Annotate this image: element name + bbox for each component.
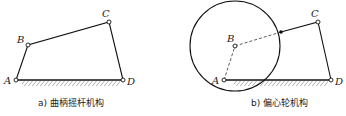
joint-d [121,78,125,82]
label-a: A [3,75,11,86]
dashed-ab [224,46,235,80]
caption-a: a) 曲柄摇杆机构 [38,96,104,109]
label-b: B [16,34,24,45]
links-abcd [16,22,123,80]
joint-rod [279,30,283,34]
joint-a [14,78,18,82]
caption-b: b) 偏心轮机构 [251,96,308,109]
joint-b [26,43,30,47]
joint-a [222,78,226,82]
label-c: C [311,8,319,19]
label-c: C [102,8,110,19]
ground-hatch [22,81,120,86]
joint-c [107,20,111,24]
joint-b [233,44,237,48]
label-d: D [126,76,135,87]
crank-rocker-figure: A B C D [3,8,135,87]
eccentric-wheel-figure: A B C D [190,1,343,91]
label-b: B [226,33,234,44]
label-a: A [211,75,219,86]
ground-hatch [234,81,328,86]
dashed-b-joint [235,32,281,46]
label-d: D [334,76,343,87]
joint-d [329,78,333,82]
links-cd [281,22,331,80]
joint-c [316,20,320,24]
